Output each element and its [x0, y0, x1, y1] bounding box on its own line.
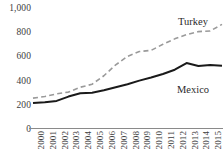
- series-label-turkey: Turkey: [178, 16, 208, 27]
- y-axis-tick-label: 1,000: [0, 3, 31, 13]
- x-axis-tick-label: 2014: [202, 131, 211, 165]
- x-axis-tick-label: 2008: [132, 131, 141, 165]
- x-axis-tick-label: 2000: [37, 131, 46, 165]
- x-axis-tick-label: 2012: [179, 131, 188, 165]
- x-axis: 2000200120022003200420052006200720082009…: [33, 131, 222, 167]
- x-axis-tick-label: 2009: [143, 131, 152, 165]
- y-axis-tick-label: 600: [0, 51, 31, 61]
- x-axis-tick-label: 2007: [120, 131, 129, 165]
- x-axis-tick-label: 2010: [155, 131, 164, 165]
- series-label-mexico: Mexico: [177, 84, 209, 95]
- x-axis-tick-label: 2013: [191, 131, 200, 165]
- y-axis-tick-label: 400: [0, 76, 31, 86]
- line-chart: 02004006008001,000 200020012002200320042…: [0, 0, 224, 168]
- x-axis-tick-label: 2005: [96, 131, 105, 165]
- x-axis-tick-label: 2003: [72, 131, 81, 165]
- x-axis-tick-label: 2004: [84, 131, 93, 165]
- y-axis-tick-label: 800: [0, 27, 31, 37]
- x-axis-line: [29, 128, 223, 129]
- x-axis-tick-label: 2006: [108, 131, 117, 165]
- x-axis-tick-label: 2011: [167, 131, 176, 165]
- y-axis-tick-label: 200: [0, 100, 31, 110]
- x-axis-tick-label: 2015: [214, 131, 223, 165]
- x-axis-tick-label: 2001: [49, 131, 58, 165]
- y-axis-tick-label: 0: [0, 124, 31, 134]
- x-axis-tick-label: 2002: [61, 131, 70, 165]
